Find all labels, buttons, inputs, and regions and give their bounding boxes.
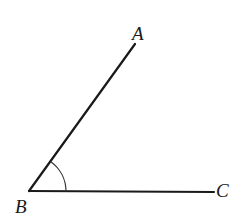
segment-bc <box>29 191 214 192</box>
angle-diagram <box>0 0 247 218</box>
segment-ba <box>29 44 135 191</box>
angle-arc <box>51 162 67 192</box>
point-label-c: C <box>216 181 229 200</box>
point-label-a: A <box>132 24 144 43</box>
point-label-b: B <box>15 197 27 216</box>
